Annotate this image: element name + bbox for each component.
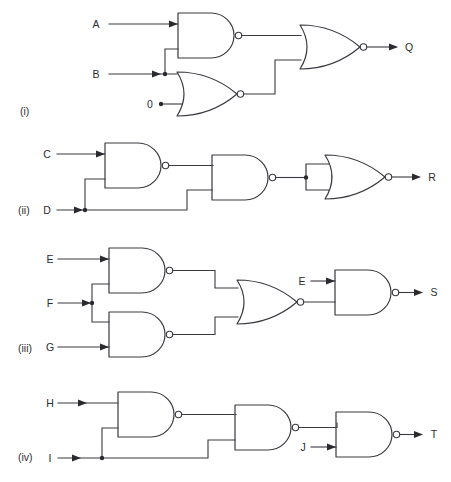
circuit-i-output-label-q: Q — [405, 41, 413, 53]
circuit-i-junction-b — [163, 72, 167, 76]
circuit-ii-arrow-r — [412, 174, 421, 181]
circuit-iii-input-label-g: G — [46, 341, 54, 353]
circuit-ii-nand-1-gate[interactable] — [105, 143, 161, 188]
circuit-iv-arrow-i — [72, 455, 81, 462]
circuit-iv-nand-1-bubble — [175, 411, 181, 417]
circuit-i-label: (i) — [20, 105, 29, 117]
circuit-iv-arrow-h — [78, 400, 87, 407]
circuit-i-nor-2-gate[interactable] — [300, 25, 360, 69]
circuit-iii-label: (iii) — [18, 342, 32, 354]
circuit-i-input-label-a: A — [92, 18, 99, 30]
circuit-ii-input-label-d: D — [43, 204, 51, 216]
circuit-iii-arrow-e2 — [326, 278, 335, 285]
circuit-ii-nand-2-bubble — [269, 174, 275, 180]
logic-circuit-diagram: A B 0 Q (i) — [0, 0, 451, 482]
circuit-i-nor-1-gate[interactable] — [177, 72, 237, 116]
circuit-iii-nand-3-bubble — [392, 289, 398, 295]
circuit-iii-arrow-s — [414, 289, 423, 296]
circuit-i-arrow-a — [169, 21, 178, 28]
circuit-iv-output-label-t: T — [431, 428, 438, 440]
circuit-ii-wire-d-branch — [85, 179, 105, 210]
circuit-iv-wire-i-branch — [102, 428, 118, 458]
circuit-iii-wire-f-up — [92, 284, 109, 303]
circuit-i-arrow-b — [152, 71, 161, 78]
circuit-iv-nand-2-gate[interactable] — [235, 405, 291, 450]
circuit-iv: H I J T (iv) — [18, 392, 438, 464]
circuit-iv-input-label-h: H — [46, 397, 54, 409]
circuit-iii-wire-nand2-out — [173, 317, 238, 335]
circuit-ii-nand-2-gate[interactable] — [212, 155, 268, 200]
circuit-i-arrow-q — [389, 44, 398, 51]
circuit-ii-junction-d — [83, 208, 87, 212]
circuit-iii-output-label-s: S — [430, 286, 437, 298]
circuit-iii-wire-nand1-out — [173, 271, 238, 289]
circuit-i: A B 0 Q (i) — [20, 13, 413, 117]
circuit-i-dot-zero — [159, 102, 163, 106]
circuit-i-input-label-b: B — [92, 68, 99, 80]
circuit-iii-input-label-e2: E — [298, 275, 305, 287]
circuit-ii-label: (ii) — [18, 204, 30, 216]
circuit-iv-label: (iv) — [18, 451, 33, 463]
circuit-ii-nor-1-gate[interactable] — [325, 155, 385, 199]
circuit-iii-nand-3-gate[interactable] — [335, 270, 391, 315]
circuit-iv-input-label-i: I — [49, 452, 52, 464]
circuit-iii-input-label-f: F — [47, 297, 53, 309]
circuit-ii-output-label-r: R — [428, 171, 436, 183]
circuit-iv-wire-nand2-out — [299, 423, 337, 428]
circuit-iii-junction-f — [90, 301, 94, 305]
circuit-ii-arrow-d — [74, 207, 83, 214]
circuit-iii-nand-2-bubble — [166, 331, 172, 337]
circuit-iii-nor-1-gate[interactable] — [237, 280, 297, 324]
circuit-ii: C D R (ii) — [18, 143, 436, 216]
circuit-iv-arrow-t — [414, 431, 423, 438]
circuit-ii-input-label-c: C — [43, 148, 51, 160]
circuit-iii-nor-1-bubble — [297, 299, 303, 305]
circuit-iv-input-label-j: J — [300, 441, 305, 453]
circuit-ii-input-tie-bar — [306, 164, 332, 190]
circuit-ii-arrow-c — [96, 151, 105, 158]
circuit-ii-nand-1-bubble — [162, 162, 168, 168]
circuit-ii-junction-tie — [304, 175, 308, 179]
circuit-iv-nand-3-gate[interactable] — [336, 412, 392, 457]
circuit-iii-arrow-f — [82, 300, 91, 307]
circuit-i-wire-b-branch — [165, 49, 178, 74]
circuit-iii-arrow-g — [100, 344, 109, 351]
circuit-iii-nand-1-bubble — [166, 267, 172, 273]
circuit-iii: E F G E S (iii) — [18, 248, 438, 357]
circuit-i-nor-1-bubble — [237, 91, 243, 97]
diagram-sheet: A B 0 Q (i) — [0, 0, 451, 482]
circuit-iv-nand-3-bubble — [393, 431, 399, 437]
circuit-i-input-label-zero: 0 — [147, 98, 153, 110]
circuit-iii-nand-2-gate[interactable] — [109, 312, 165, 357]
circuit-iv-arrow-j — [327, 444, 336, 451]
circuit-iv-nand-1-gate[interactable] — [118, 392, 174, 437]
circuit-iv-wire-i — [58, 440, 235, 458]
circuit-iii-nand-1-gate[interactable] — [109, 248, 165, 293]
circuit-iii-wire-f-down — [92, 303, 109, 322]
circuit-i-nand-1-gate[interactable] — [178, 13, 234, 58]
circuit-i-wire-nor1-out — [244, 60, 301, 94]
circuit-i-nor-2-bubble — [360, 44, 366, 50]
circuit-ii-wire-d — [57, 190, 212, 210]
circuit-iii-arrow-e — [100, 256, 109, 263]
circuit-iv-junction-i — [100, 456, 104, 460]
circuit-iv-nand-2-bubble — [292, 424, 298, 430]
circuit-i-nand-1-bubble — [235, 32, 241, 38]
circuit-ii-nor-1-bubble — [385, 174, 391, 180]
circuit-iii-input-label-e: E — [46, 253, 53, 265]
